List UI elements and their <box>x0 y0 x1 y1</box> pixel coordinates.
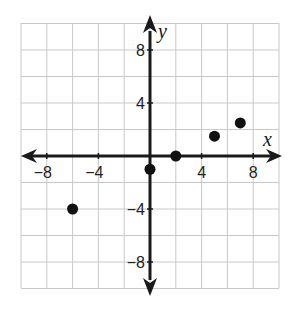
y-tick-label: −8 <box>127 254 145 271</box>
x-tick-label: 8 <box>249 164 258 181</box>
y-axis-label: y <box>156 20 167 43</box>
y-tick-label: −4 <box>127 201 145 218</box>
data-point <box>209 131 220 142</box>
x-tick-label: −4 <box>85 164 103 181</box>
x-tick-label: −8 <box>34 164 52 181</box>
axes <box>21 15 282 296</box>
data-point <box>145 164 156 175</box>
x-axis-label: x <box>262 128 272 150</box>
x-tick-label: 4 <box>197 164 206 181</box>
scatter-plot: −8−44884−4−8 x y <box>0 0 295 313</box>
y-tick-label: 4 <box>136 95 145 112</box>
data-point <box>67 204 78 215</box>
y-tick-label: 8 <box>136 42 145 59</box>
data-point <box>170 151 181 162</box>
data-point <box>235 117 246 128</box>
